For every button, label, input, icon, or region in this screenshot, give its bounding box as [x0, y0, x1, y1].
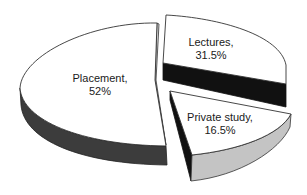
label-placement-name: Placement, — [72, 72, 127, 85]
label-private-study-name: Private study, — [187, 111, 253, 124]
label-placement: Placement, 52% — [72, 72, 127, 98]
label-lectures-value: 31.5% — [188, 49, 233, 62]
label-private-study: Private study, 16.5% — [187, 111, 253, 137]
label-placement-value: 52% — [72, 85, 127, 98]
label-lectures: Lectures, 31.5% — [188, 36, 233, 62]
label-lectures-name: Lectures, — [188, 36, 233, 49]
label-private-study-value: 16.5% — [187, 124, 253, 137]
pie-chart — [0, 0, 307, 195]
